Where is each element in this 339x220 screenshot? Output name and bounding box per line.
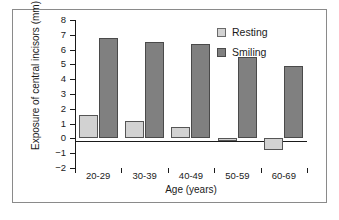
bar-smiling-50-59 — [238, 57, 257, 138]
bar-resting-30-39 — [125, 121, 144, 139]
legend-label-resting: Resting — [232, 27, 268, 38]
y-tick-label: 0 — [23, 133, 66, 142]
legend-swatch-smiling-icon — [217, 48, 226, 57]
y-tick-label: 1 — [23, 119, 66, 128]
y-tick-label: 3 — [23, 89, 66, 98]
chart-legend: Resting Smiling — [217, 24, 268, 64]
bar-resting-50-59 — [218, 138, 237, 141]
y-tick-label: −2 — [23, 163, 66, 172]
y-tick-label: −1 — [23, 148, 66, 157]
y-tick-label: 2 — [23, 104, 66, 113]
bar-resting-20-29 — [79, 115, 98, 139]
bar-series-layer — [75, 20, 307, 168]
y-tick-label: 4 — [23, 74, 66, 83]
y-tick-label: 8 — [23, 15, 66, 24]
bar-group — [75, 20, 121, 168]
x-axis-title: Age (years) — [75, 184, 307, 195]
y-tick-label: 6 — [23, 45, 66, 54]
legend-label-smiling: Smiling — [232, 47, 266, 58]
y-tick-label: 7 — [23, 30, 66, 39]
chart-plot-area: Exposure of central incisors (mm) 876543… — [13, 10, 328, 204]
legend-item-resting: Resting — [217, 24, 268, 40]
chart-figure-frame: Exposure of central incisors (mm) 876543… — [12, 9, 327, 203]
bar-smiling-60-69 — [284, 66, 303, 139]
bar-group — [168, 20, 214, 168]
bar-group — [121, 20, 167, 168]
bar-smiling-20-29 — [99, 38, 118, 139]
bar-smiling-40-49 — [191, 44, 210, 138]
legend-item-smiling: Smiling — [217, 44, 268, 60]
bar-smiling-30-39 — [145, 42, 164, 138]
bar-resting-40-49 — [171, 127, 190, 139]
x-tick-label: 60-69 — [254, 170, 314, 181]
y-tick-label: 5 — [23, 59, 66, 68]
bar-resting-60-69 — [264, 138, 283, 150]
legend-swatch-resting-icon — [217, 28, 226, 37]
